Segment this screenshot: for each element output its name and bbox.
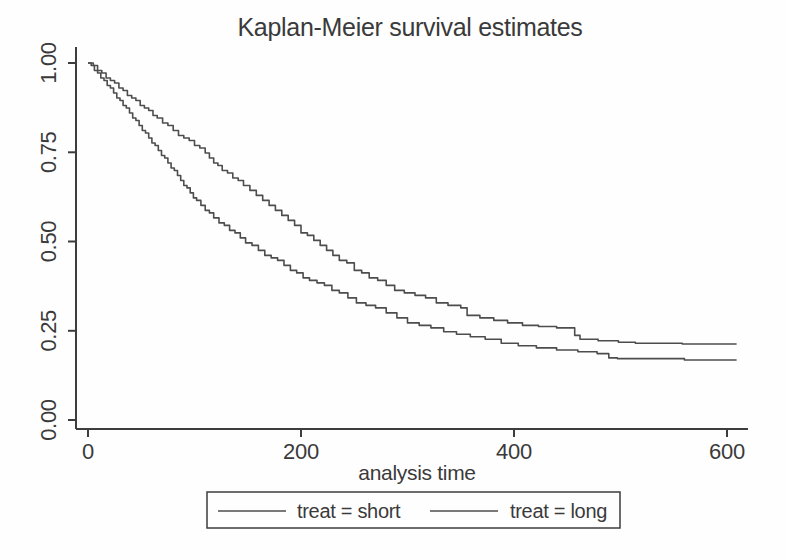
x-tick-label-600: 600: [709, 439, 745, 464]
survival-curve-short: [88, 63, 737, 360]
y-tick-label-0.50: 0.50: [36, 221, 61, 263]
km-survival-chart: Kaplan-Meier survival estimates 1.00 0.7…: [0, 0, 785, 560]
x-axis-label: analysis time: [358, 461, 475, 484]
x-tick-label-0: 0: [82, 439, 94, 464]
x-tick-label-400: 400: [496, 439, 532, 464]
legend: treat = short treat = long: [207, 492, 620, 528]
legend-label-long: treat = long: [510, 500, 607, 522]
y-tick-label-1.00: 1.00: [36, 42, 61, 84]
chart-title: Kaplan-Meier survival estimates: [238, 13, 583, 41]
y-tick-label-0.75: 0.75: [36, 131, 61, 173]
x-tick-label-200: 200: [283, 439, 319, 464]
survival-curve-long: [88, 63, 737, 344]
figure-canvas: Kaplan-Meier survival estimates 1.00 0.7…: [0, 0, 785, 560]
y-tick-label-0.00: 0.00: [36, 399, 61, 441]
legend-label-short: treat = short: [297, 500, 401, 522]
y-tick-label-0.25: 0.25: [36, 310, 61, 352]
